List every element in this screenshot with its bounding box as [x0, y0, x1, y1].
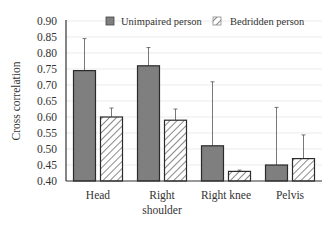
- bars: [74, 39, 315, 181]
- y-tick-label: 0.60: [37, 111, 57, 123]
- legend: Unimpaired person Bedridden person: [106, 16, 305, 27]
- y-tick-label: 0.65: [37, 95, 57, 107]
- x-category-label: Right: [149, 189, 175, 202]
- y-tick-label: 0.80: [37, 47, 57, 59]
- y-tick-label: 0.90: [37, 15, 57, 27]
- y-tick-label: 0.50: [37, 143, 57, 155]
- bar-bedridden: [293, 159, 315, 181]
- bar-unimpaired: [202, 146, 224, 181]
- legend-label-unimpaired: Unimpaired person: [121, 16, 203, 27]
- bar-bedridden: [101, 117, 123, 181]
- y-tick-label: 0.45: [37, 159, 57, 171]
- x-category-label: Head: [86, 189, 111, 201]
- x-category-label: Right knee: [201, 189, 251, 202]
- y-tick-label: 0.40: [37, 175, 57, 187]
- y-axis-label: Cross correlation: [10, 61, 22, 140]
- bar-bedridden: [165, 120, 187, 181]
- legend-swatch-bedridden: [213, 17, 221, 25]
- y-tick-label: 0.55: [37, 127, 57, 139]
- y-tick-label: 0.75: [37, 63, 57, 75]
- x-category-label: shoulder: [142, 204, 182, 216]
- bar-unimpaired: [266, 165, 288, 181]
- bar-unimpaired: [74, 71, 96, 181]
- bar-bedridden: [229, 171, 251, 181]
- legend-label-bedridden: Bedridden person: [230, 16, 305, 27]
- y-tick-label: 0.85: [37, 31, 57, 43]
- y-tick-labels: 0.400.450.500.550.600.650.700.750.800.85…: [37, 15, 57, 187]
- bar-unimpaired: [138, 66, 160, 181]
- y-tick-label: 0.70: [37, 79, 57, 91]
- x-category-labels: HeadRightshoulderRight kneePelvis: [86, 189, 305, 216]
- legend-swatch-unimpaired: [106, 17, 114, 25]
- x-category-label: Pelvis: [276, 189, 305, 201]
- bar-chart: 0.400.450.500.550.600.650.700.750.800.85…: [0, 0, 336, 226]
